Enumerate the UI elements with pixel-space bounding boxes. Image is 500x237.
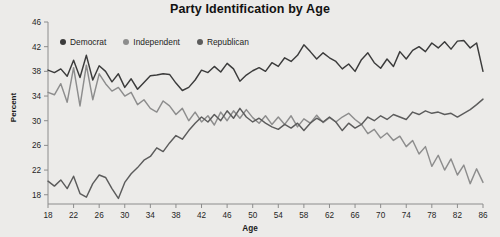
legend-swatch-icon — [123, 39, 129, 45]
svg-text:82: 82 — [453, 211, 463, 220]
legend-item-independent[interactable]: Independent — [123, 37, 180, 47]
svg-text:38: 38 — [171, 211, 181, 220]
svg-text:30: 30 — [120, 211, 130, 220]
legend-item-democrat[interactable]: Democrat — [60, 37, 106, 47]
series-line-republican — [48, 99, 483, 198]
svg-text:78: 78 — [427, 211, 437, 220]
svg-text:74: 74 — [402, 211, 412, 220]
legend-label: Republican — [207, 37, 249, 47]
svg-text:42: 42 — [32, 43, 42, 52]
series-line-independent — [48, 65, 483, 183]
svg-text:50: 50 — [248, 211, 258, 220]
x-axis-label: Age — [0, 224, 500, 233]
svg-text:34: 34 — [32, 92, 42, 101]
svg-text:54: 54 — [274, 211, 284, 220]
series-line-democrat — [48, 41, 483, 91]
svg-text:46: 46 — [223, 211, 233, 220]
svg-text:70: 70 — [376, 211, 386, 220]
svg-text:22: 22 — [32, 166, 42, 175]
chart-plot: 1822263034384246182226303438424650545862… — [0, 0, 500, 237]
svg-text:26: 26 — [95, 211, 105, 220]
legend-swatch-icon — [197, 39, 203, 45]
svg-text:38: 38 — [32, 67, 42, 76]
svg-text:58: 58 — [299, 211, 309, 220]
legend-item-republican[interactable]: Republican — [197, 37, 249, 47]
svg-text:66: 66 — [351, 211, 361, 220]
svg-text:18: 18 — [43, 211, 53, 220]
legend-swatch-icon — [60, 39, 66, 45]
svg-text:46: 46 — [32, 18, 42, 27]
svg-text:30: 30 — [32, 117, 42, 126]
svg-text:42: 42 — [197, 211, 207, 220]
chart-series-layer — [48, 41, 483, 199]
legend-label: Democrat — [70, 37, 106, 47]
y-axis-label: Percent — [9, 78, 18, 138]
svg-text:34: 34 — [146, 211, 156, 220]
svg-text:18: 18 — [32, 191, 42, 200]
svg-text:62: 62 — [325, 211, 335, 220]
legend-label: Independent — [133, 37, 180, 47]
svg-text:86: 86 — [478, 211, 488, 220]
chart-legend: DemocratIndependentRepublican — [60, 37, 249, 47]
svg-text:26: 26 — [32, 141, 42, 150]
svg-text:22: 22 — [69, 211, 79, 220]
chart-container: Party Identification by Age 182226303438… — [0, 0, 500, 237]
